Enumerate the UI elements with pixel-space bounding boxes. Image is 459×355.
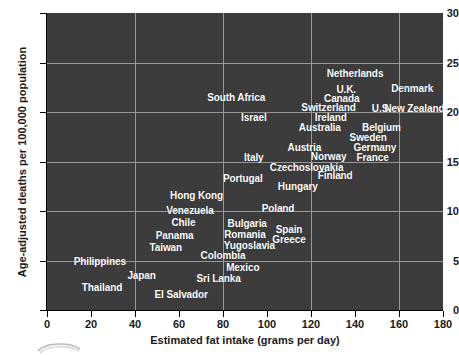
data-point-label: Taiwan	[150, 243, 183, 253]
gridline-horizontal	[47, 63, 443, 64]
data-point-label: Portugal	[223, 174, 263, 184]
y-tick-mark	[40, 261, 46, 262]
data-point-label: Poland	[262, 204, 295, 214]
data-point-label: Hong Kong	[170, 191, 223, 201]
data-point-label: Philippines	[74, 257, 126, 267]
data-point-label: Australia	[299, 123, 341, 133]
x-tick-label: 180	[434, 318, 452, 330]
data-point-label: Mexico	[226, 263, 259, 273]
data-point-label: Sri Lanka	[197, 274, 241, 284]
data-point-label: Venezuela	[166, 206, 213, 216]
x-tick-label: 80	[217, 318, 229, 330]
data-point-label: Finland	[318, 171, 353, 181]
data-point-label: El Salvador	[155, 290, 208, 300]
y-tick-label: 15	[423, 156, 459, 168]
data-point-label: Greece	[272, 235, 305, 245]
x-tick-mark	[267, 311, 268, 317]
x-tick-mark	[355, 311, 356, 317]
x-tick-label: 120	[302, 318, 320, 330]
page-corner-mark	[36, 340, 82, 354]
y-tick-mark	[40, 112, 46, 113]
data-point-label: Italy	[244, 153, 264, 163]
x-tick-label: 140	[346, 318, 364, 330]
x-tick-mark	[223, 311, 224, 317]
data-point-label: Denmark	[391, 84, 433, 94]
y-tick-label: 0	[423, 304, 459, 316]
y-tick-mark	[40, 211, 46, 212]
data-point-label: France	[356, 153, 388, 163]
x-tick-mark	[135, 311, 136, 317]
x-tick-label: 40	[129, 318, 141, 330]
x-axis-label: Estimated fat intake (grams per day)	[47, 334, 443, 346]
data-point-label: Hungary	[278, 182, 318, 192]
plot-area: NetherlandsU.K.DenmarkCanadaSouth Africa…	[47, 13, 443, 310]
gridline-horizontal	[47, 211, 443, 212]
scatter-plot-figure: NetherlandsU.K.DenmarkCanadaSouth Africa…	[0, 0, 459, 355]
x-tick-mark	[399, 311, 400, 317]
data-point-label: Norway	[311, 152, 347, 162]
y-tick-mark	[40, 13, 46, 14]
data-point-label: Panama	[156, 231, 194, 241]
x-tick-label: 20	[85, 318, 97, 330]
y-tick-label: 10	[423, 205, 459, 217]
x-tick-mark	[179, 311, 180, 317]
x-tick-mark	[91, 311, 92, 317]
x-tick-mark	[47, 311, 48, 317]
data-point-label: Thailand	[82, 283, 122, 293]
data-point-label: Colombia	[201, 251, 246, 261]
y-tick-mark	[40, 63, 46, 64]
x-tick-label: 160	[390, 318, 408, 330]
y-axis-label: Age-adjusted deaths per 100,000 populati…	[16, 12, 28, 312]
y-tick-mark	[40, 162, 46, 163]
x-tick-label: 60	[173, 318, 185, 330]
x-tick-mark	[443, 311, 444, 317]
x-axis-line	[46, 310, 443, 311]
data-point-label: Netherlands	[327, 69, 384, 79]
y-tick-label: 25	[423, 57, 459, 69]
x-tick-mark	[311, 311, 312, 317]
y-tick-label: 30	[423, 7, 459, 19]
data-point-label: Bulgaria	[228, 219, 267, 229]
data-point-label: South Africa	[207, 93, 265, 103]
data-point-label: Chile	[171, 218, 195, 228]
x-tick-label: 0	[44, 318, 50, 330]
data-point-label: Romania	[224, 230, 266, 240]
y-tick-label: 5	[423, 255, 459, 267]
y-tick-mark	[40, 310, 46, 311]
data-point-label: New Zealand	[384, 104, 443, 114]
x-tick-label: 100	[258, 318, 276, 330]
data-point-label: Japan	[127, 271, 155, 281]
data-point-label: Israel	[241, 113, 267, 123]
y-axis-line	[46, 13, 47, 311]
